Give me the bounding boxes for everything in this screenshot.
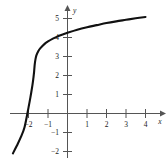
y-axis-label: y bbox=[72, 6, 77, 15]
y-tick-label-1: 1 bbox=[55, 90, 59, 99]
y-tick-label-neg1: −1 bbox=[51, 128, 59, 137]
x-tick-label-4: 4 bbox=[144, 120, 148, 129]
y-tick-label-3: 3 bbox=[55, 52, 59, 61]
x-tick-label-2: 2 bbox=[105, 120, 109, 129]
y-tick-label-neg2: −2 bbox=[51, 147, 59, 156]
x-tick-label-3: 3 bbox=[124, 120, 128, 129]
function-curve bbox=[13, 17, 146, 153]
x-tick-label-1: 1 bbox=[85, 120, 89, 129]
cube-root-function-plot: −2 −1 1 2 3 4 1 2 3 4 5 −1 −2 y x bbox=[0, 0, 167, 165]
x-axis-arrow-icon bbox=[160, 111, 166, 117]
x-axis-label: x bbox=[157, 117, 162, 126]
y-tick-label-5: 5 bbox=[55, 14, 59, 23]
graph-figure: −2 −1 1 2 3 4 1 2 3 4 5 −1 −2 y x bbox=[0, 0, 167, 165]
y-axis-arrow-icon bbox=[65, 5, 71, 11]
y-tick-label-2: 2 bbox=[55, 71, 59, 80]
